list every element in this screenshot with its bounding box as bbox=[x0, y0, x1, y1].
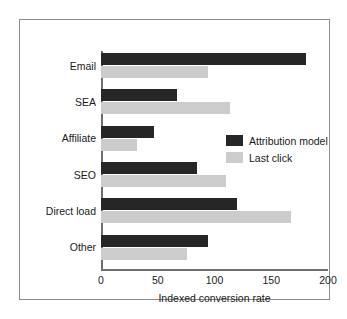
bar bbox=[101, 102, 230, 114]
bar bbox=[101, 211, 291, 223]
bar-group bbox=[101, 89, 328, 125]
x-tick-label: 200 bbox=[319, 274, 337, 286]
category-label: SEO bbox=[74, 170, 96, 181]
chart-legend: Attribution modelLast click bbox=[226, 133, 328, 167]
bar bbox=[101, 139, 137, 151]
category-label: Affiliate bbox=[62, 133, 96, 144]
bar-group bbox=[101, 162, 328, 198]
legend-item: Last click bbox=[226, 150, 328, 165]
bar bbox=[101, 198, 237, 210]
legend-label: Attribution model bbox=[249, 135, 328, 147]
figure-frame: EmailSEAAffiliateSEODirect loadOther 050… bbox=[19, 19, 330, 300]
legend-item: Attribution model bbox=[226, 133, 328, 148]
legend-swatch-icon bbox=[226, 152, 243, 163]
category-label: SEA bbox=[75, 97, 96, 108]
x-tick-label: 100 bbox=[206, 274, 224, 286]
x-tick-label: 150 bbox=[262, 274, 280, 286]
category-axis-labels: EmailSEAAffiliateSEODirect loadOther bbox=[38, 51, 96, 269]
bar bbox=[101, 235, 208, 247]
bar bbox=[101, 175, 226, 187]
chart-screenshot: EmailSEAAffiliateSEODirect loadOther 050… bbox=[0, 0, 347, 319]
x-tick-label: 0 bbox=[98, 274, 104, 286]
bar-group bbox=[101, 235, 328, 271]
legend-swatch-icon bbox=[226, 135, 243, 146]
bar-group bbox=[101, 53, 328, 89]
bar bbox=[101, 53, 306, 65]
x-axis-tick-labels: 050100150200 bbox=[101, 274, 328, 288]
category-label: Direct load bbox=[46, 206, 96, 217]
bar bbox=[101, 66, 208, 78]
legend-label: Last click bbox=[249, 152, 292, 164]
bar-group bbox=[101, 198, 328, 234]
category-label: Other bbox=[70, 242, 96, 253]
bar bbox=[101, 248, 187, 260]
category-label: Email bbox=[70, 61, 96, 72]
x-tick-label: 50 bbox=[152, 274, 164, 286]
bar bbox=[101, 162, 197, 174]
bar bbox=[101, 89, 177, 101]
x-axis-title: Indexed conversion rate bbox=[101, 292, 328, 304]
bar bbox=[101, 126, 154, 138]
